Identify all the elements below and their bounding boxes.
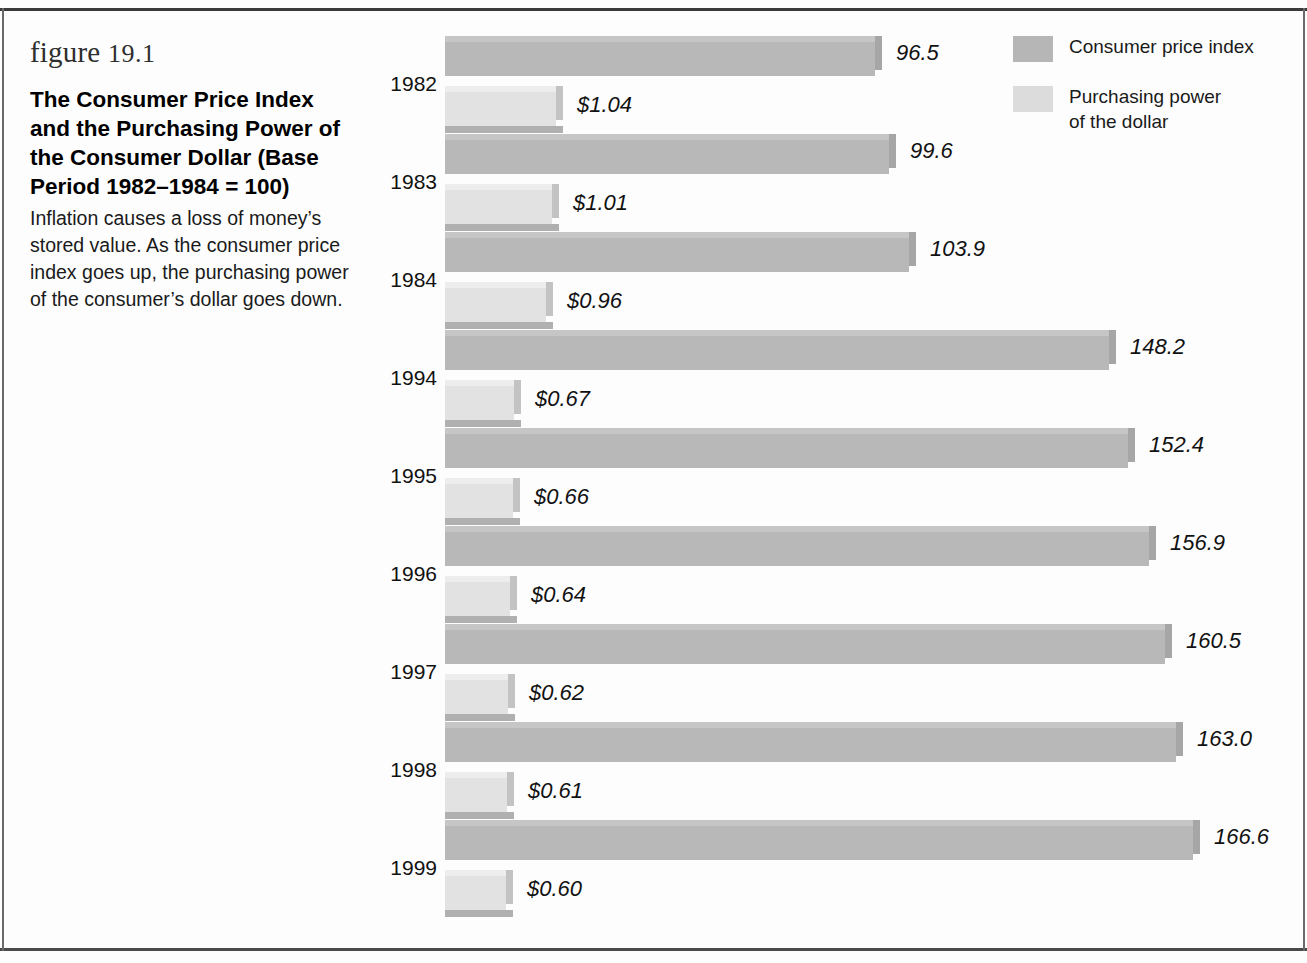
- bar-cpi-1994: [445, 330, 1116, 370]
- bar-front-face: [445, 778, 507, 812]
- bar-front-face: [445, 386, 514, 420]
- bar-value-cpi-1982: 96.5: [896, 40, 939, 66]
- bar-right-cap: [552, 184, 559, 218]
- bar-value-purchasing-power-1995: $0.66: [534, 484, 589, 510]
- bar-right-cap: [1128, 428, 1135, 462]
- bar-front-face: [445, 238, 909, 272]
- bar-value-purchasing-power-1984: $0.96: [567, 288, 622, 314]
- bar-purchasing-power-1997: [445, 674, 515, 714]
- year-label-1997: 1997: [300, 660, 437, 684]
- bar-chart: 198296.5$1.04198399.6$1.011984103.9$0.96…: [0, 0, 1307, 963]
- bar-drop-shadow: [445, 420, 521, 427]
- bar-drop-shadow: [445, 812, 514, 819]
- bar-front-face: [445, 630, 1165, 664]
- year-label-1994: 1994: [300, 366, 437, 390]
- year-label-1999: 1999: [300, 856, 437, 880]
- bar-drop-shadow: [445, 910, 513, 917]
- bar-value-cpi-1994: 148.2: [1130, 334, 1185, 360]
- year-label-1984: 1984: [300, 268, 437, 292]
- bar-value-cpi-1999: 166.6: [1214, 824, 1269, 850]
- bar-value-cpi-1997: 160.5: [1186, 628, 1241, 654]
- bar-right-cap: [889, 134, 896, 168]
- bar-front-face: [445, 92, 556, 126]
- bar-right-cap: [546, 282, 553, 316]
- bar-value-purchasing-power-1994: $0.67: [535, 386, 590, 412]
- bar-front-face: [445, 434, 1128, 468]
- bar-front-face: [445, 336, 1109, 370]
- bar-front-face: [445, 582, 510, 616]
- bar-front-face: [445, 876, 506, 910]
- bar-right-cap: [1176, 722, 1183, 756]
- bar-purchasing-power-1984: [445, 282, 553, 322]
- bar-cpi-1984: [445, 232, 916, 272]
- bar-right-cap: [909, 232, 916, 266]
- bar-purchasing-power-1994: [445, 380, 521, 420]
- bar-right-cap: [514, 380, 521, 414]
- bar-drop-shadow: [445, 714, 515, 721]
- bar-cpi-1983: [445, 134, 896, 174]
- bar-front-face: [445, 680, 508, 714]
- bar-value-cpi-1984: 103.9: [930, 236, 985, 262]
- bar-right-cap: [508, 674, 515, 708]
- bar-drop-shadow: [445, 126, 563, 133]
- bar-front-face: [445, 826, 1193, 860]
- bar-cpi-1998: [445, 722, 1183, 762]
- bar-drop-shadow: [445, 322, 553, 329]
- bar-value-cpi-1995: 152.4: [1149, 432, 1204, 458]
- bar-value-purchasing-power-1997: $0.62: [529, 680, 584, 706]
- year-label-1982: 1982: [300, 72, 437, 96]
- bar-drop-shadow: [445, 518, 520, 525]
- bar-value-cpi-1998: 163.0: [1197, 726, 1252, 752]
- bar-cpi-1999: [445, 820, 1200, 860]
- bar-purchasing-power-1982: [445, 86, 563, 126]
- bar-front-face: [445, 728, 1176, 762]
- bar-purchasing-power-1996: [445, 576, 517, 616]
- bar-right-cap: [1109, 330, 1116, 364]
- bar-value-purchasing-power-1999: $0.60: [527, 876, 582, 902]
- bar-front-face: [445, 484, 513, 518]
- bar-cpi-1995: [445, 428, 1135, 468]
- bar-right-cap: [875, 36, 882, 70]
- bar-value-purchasing-power-1998: $0.61: [528, 778, 583, 804]
- bar-drop-shadow: [445, 224, 559, 231]
- year-label-1995: 1995: [300, 464, 437, 488]
- bar-right-cap: [1193, 820, 1200, 854]
- bar-right-cap: [556, 86, 563, 120]
- bar-front-face: [445, 42, 875, 76]
- bar-right-cap: [506, 870, 513, 904]
- year-label-1983: 1983: [300, 170, 437, 194]
- bar-cpi-1982: [445, 36, 882, 76]
- bar-cpi-1996: [445, 526, 1156, 566]
- bar-right-cap: [510, 576, 517, 610]
- bar-value-cpi-1996: 156.9: [1170, 530, 1225, 556]
- bar-front-face: [445, 140, 889, 174]
- bar-value-cpi-1983: 99.6: [910, 138, 953, 164]
- bar-front-face: [445, 532, 1149, 566]
- bar-right-cap: [1149, 526, 1156, 560]
- year-label-1996: 1996: [300, 562, 437, 586]
- bar-right-cap: [1165, 624, 1172, 658]
- bar-drop-shadow: [445, 616, 517, 623]
- year-label-1998: 1998: [300, 758, 437, 782]
- bar-purchasing-power-1999: [445, 870, 513, 910]
- bar-value-purchasing-power-1982: $1.04: [577, 92, 632, 118]
- bar-cpi-1997: [445, 624, 1172, 664]
- bar-purchasing-power-1995: [445, 478, 520, 518]
- bar-value-purchasing-power-1983: $1.01: [573, 190, 628, 216]
- bar-value-purchasing-power-1996: $0.64: [531, 582, 586, 608]
- bar-front-face: [445, 190, 552, 224]
- bar-front-face: [445, 288, 546, 322]
- bar-right-cap: [513, 478, 520, 512]
- bar-right-cap: [507, 772, 514, 806]
- bar-purchasing-power-1998: [445, 772, 514, 812]
- figure-frame: figure 19.1 The Consumer Price Index and…: [0, 0, 1307, 963]
- bar-purchasing-power-1983: [445, 184, 559, 224]
